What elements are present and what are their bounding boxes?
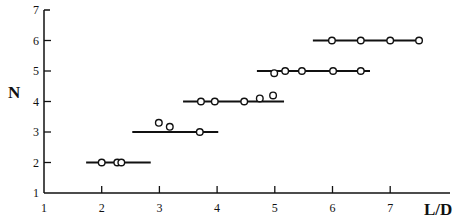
- x-tick-label: 7: [387, 201, 393, 215]
- x-axis-title: L/D: [424, 200, 452, 219]
- data-point: [156, 120, 163, 127]
- y-tick-label: 6: [33, 34, 39, 48]
- data-point: [416, 37, 423, 44]
- data-point: [196, 129, 203, 136]
- data-point: [387, 37, 394, 44]
- x-tick-label: 6: [330, 201, 336, 215]
- level-N2: [86, 159, 151, 166]
- step-chart: 1234567 1234567 N L/D: [0, 0, 461, 224]
- data-point: [330, 68, 337, 75]
- y-ticks: 1234567: [33, 3, 51, 200]
- level-N6: [313, 37, 422, 44]
- y-tick-label: 4: [33, 95, 39, 109]
- y-tick-label: 3: [33, 125, 39, 139]
- y-tick-label: 5: [33, 64, 39, 78]
- x-ticks: 1234567: [41, 186, 393, 215]
- data-point: [198, 98, 205, 105]
- y-tick-label: 1: [33, 186, 39, 200]
- x-tick-label: 1: [41, 201, 47, 215]
- data-point: [270, 92, 277, 99]
- data-point: [299, 68, 306, 75]
- level-N3: [132, 120, 218, 136]
- data-series: [86, 37, 422, 166]
- data-point: [256, 95, 263, 102]
- level-N4: [183, 92, 284, 105]
- data-point: [166, 124, 173, 131]
- y-tick-label: 7: [33, 3, 39, 17]
- data-point: [329, 37, 336, 44]
- data-point: [271, 70, 278, 77]
- data-point: [357, 68, 364, 75]
- x-tick-label: 4: [214, 201, 220, 215]
- x-tick-label: 3: [156, 201, 162, 215]
- data-point: [98, 159, 105, 166]
- data-point: [282, 68, 289, 75]
- y-axis-title: N: [8, 83, 21, 102]
- level-N5: [257, 68, 370, 77]
- data-point: [241, 98, 248, 105]
- data-point: [211, 98, 218, 105]
- x-tick-label: 5: [272, 201, 278, 215]
- data-point: [357, 37, 364, 44]
- data-point: [118, 159, 125, 166]
- y-tick-label: 2: [33, 156, 39, 170]
- x-tick-label: 2: [99, 201, 105, 215]
